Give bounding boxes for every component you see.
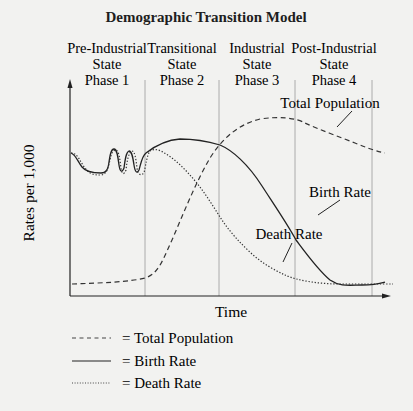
x-axis-arrow-icon bbox=[382, 294, 391, 299]
diagram-canvas: Demographic Transition Model Pre-Industr… bbox=[0, 0, 413, 411]
phase-2-name: Transitional bbox=[147, 40, 217, 56]
legend-label-total-population: = Total Population bbox=[122, 330, 234, 346]
phase-4-state: State bbox=[320, 56, 349, 72]
phase-3-state: State bbox=[243, 56, 272, 72]
phase-4-name: Post-Industrial bbox=[291, 40, 376, 56]
legend-label-death-rate: = Death Rate bbox=[122, 375, 202, 391]
legend: = Total Population = Birth Rate = Death … bbox=[72, 330, 234, 391]
y-axis-label: Rates per 1,000 bbox=[20, 144, 37, 241]
phase-1-name: Pre-Industrial bbox=[67, 40, 147, 56]
legend-item-total-population: = Total Population bbox=[72, 330, 234, 346]
phase-header-4: Post-Industrial State Phase 4 bbox=[291, 40, 376, 88]
x-axis-label: Time bbox=[215, 303, 247, 320]
annotation-birth-rate: Birth Rate bbox=[309, 184, 371, 200]
annotation-death-rate: Death Rate bbox=[255, 226, 322, 242]
legend-label-birth-rate: = Birth Rate bbox=[122, 353, 197, 369]
y-axis-arrow-icon bbox=[68, 79, 73, 88]
phase-3-label: Phase 3 bbox=[235, 72, 280, 88]
annotation-leader-death-rate bbox=[283, 243, 292, 262]
legend-item-death-rate: = Death Rate bbox=[72, 375, 202, 391]
phase-header-2: Transitional State Phase 2 bbox=[147, 40, 217, 88]
phase-2-label: Phase 2 bbox=[160, 72, 205, 88]
demographic-transition-chart: Demographic Transition Model Pre-Industr… bbox=[0, 0, 413, 411]
phase-4-label: Phase 4 bbox=[312, 72, 357, 88]
phase-1-state: State bbox=[93, 56, 122, 72]
birth-rate-curve bbox=[71, 139, 385, 285]
phase-2-state: State bbox=[168, 56, 197, 72]
annotation-leader-total-population bbox=[337, 111, 352, 127]
legend-item-birth-rate: = Birth Rate bbox=[72, 353, 197, 369]
phase-header-3: Industrial State Phase 3 bbox=[229, 40, 285, 88]
chart-title: Demographic Transition Model bbox=[105, 9, 306, 25]
annotation-total-population: Total Population bbox=[280, 95, 380, 111]
death-rate-curve bbox=[71, 150, 393, 284]
phase-header-1: Pre-Industrial State Phase 1 bbox=[67, 40, 147, 88]
phase-3-name: Industrial bbox=[229, 40, 285, 56]
annotation-leader-birth-rate bbox=[318, 200, 340, 215]
phase-1-label: Phase 1 bbox=[85, 72, 130, 88]
